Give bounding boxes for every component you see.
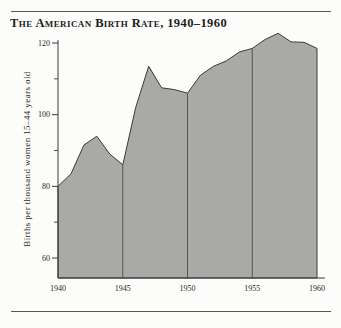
y-axis-tick-label-80: 80 — [42, 182, 50, 191]
y-axis-tick-label-120: 120 — [38, 39, 50, 48]
x-axis-tick-label-1945: 1945 — [115, 284, 131, 293]
x-axis-tick-label-1955: 1955 — [244, 284, 260, 293]
birth-rate-chart: 608010012019401945195019551960Births per… — [0, 0, 341, 328]
figure-page: The American Birth Rate, 1940–1960 60801… — [0, 0, 341, 328]
x-axis-tick-label-1960: 1960 — [309, 284, 325, 293]
y-axis-tick-label-60: 60 — [42, 254, 50, 263]
y-axis-title: Births per thousand women 15–44 years ol… — [22, 71, 32, 246]
x-axis-tick-label-1950: 1950 — [180, 284, 196, 293]
bottom-rule — [11, 311, 331, 312]
y-axis-tick-label-100: 100 — [38, 110, 50, 119]
x-axis-tick-label-1940: 1940 — [50, 284, 66, 293]
